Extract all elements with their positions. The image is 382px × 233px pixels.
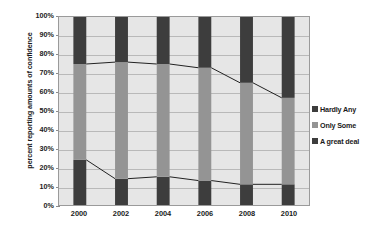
x-tick-label: 2002 [101,210,141,217]
legend-swatch-icon [312,138,318,144]
y-tick-label: 100% [22,12,54,19]
connector-line-great-deal [211,181,240,185]
connector-line-only-some [211,68,240,83]
legend-item[interactable]: Only Some [312,117,382,133]
y-tick-label: 60% [22,88,54,95]
y-tick-label: 20% [22,164,54,171]
y-axis-tick-labels: 0%10%20%30%40%50%60%70%80%90%100% [22,10,54,210]
x-tick-label: 2000 [59,210,99,217]
connector-line-great-deal [128,177,157,179]
legend-item[interactable]: Hardly Any [312,101,382,117]
x-tick-label: 2006 [185,210,225,217]
y-tick-label: 40% [22,126,54,133]
y-tick-label: 70% [22,69,54,76]
connector-line-great-deal [86,160,115,179]
legend-label: A great deal [320,137,359,146]
x-tick-label: 2004 [143,210,183,217]
plot-area [58,16,310,206]
x-tick-label: 2008 [227,210,267,217]
y-tick-label: 50% [22,107,54,114]
y-tick-label: 90% [22,31,54,38]
x-tick-label: 2010 [269,210,309,217]
y-tick-label: 0% [22,202,54,209]
connector-line-only-some [128,62,157,64]
y-tick-label: 80% [22,50,54,57]
chart-legend: Hardly AnyOnly SomeA great deal [312,101,382,149]
y-tick-label: 10% [22,183,54,190]
x-axis-tick-labels: 200020022004200620082010 [58,210,310,226]
connector-lines-layer [59,17,309,205]
legend-swatch-icon [312,122,318,128]
legend-label: Only Some [320,121,356,130]
y-tick-label: 30% [22,145,54,152]
legend-swatch-icon [312,106,318,112]
y-tick-mark [56,206,60,207]
legend-label: Hardly Any [320,105,356,114]
connector-line-only-some [86,62,115,64]
legend-item[interactable]: A great deal [312,133,382,149]
connector-line-only-some [253,83,282,98]
connector-line-only-some [170,64,199,68]
connector-line-great-deal [170,177,199,181]
stacked-bar-chart: percent reporting amounts of confidence … [0,0,382,233]
